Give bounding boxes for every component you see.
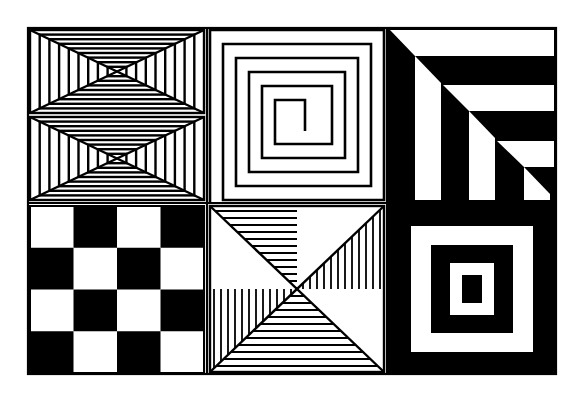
checker-cell xyxy=(117,248,161,290)
checker-cell xyxy=(117,331,161,373)
geometric-pattern-figure: Black and white geometric pattern grid A… xyxy=(0,0,585,394)
checker-cell xyxy=(161,290,205,332)
panel-hatched-pinwheel xyxy=(207,203,387,375)
checker-cell xyxy=(30,331,74,373)
checker-cell xyxy=(74,290,118,332)
checker-cell xyxy=(161,206,205,248)
panel-square-spiral xyxy=(207,27,387,203)
checker-cell xyxy=(74,206,118,248)
checker-cell xyxy=(30,248,74,290)
panel-checkerboard xyxy=(27,203,207,375)
artboard: Black and white geometric pattern grid A… xyxy=(0,0,585,394)
panel-diagonal-split-bars xyxy=(387,27,557,203)
panel-concentric-squares xyxy=(387,203,557,375)
panel-perspective-tunnels xyxy=(27,27,207,203)
concentric-ring-5 xyxy=(462,275,482,303)
